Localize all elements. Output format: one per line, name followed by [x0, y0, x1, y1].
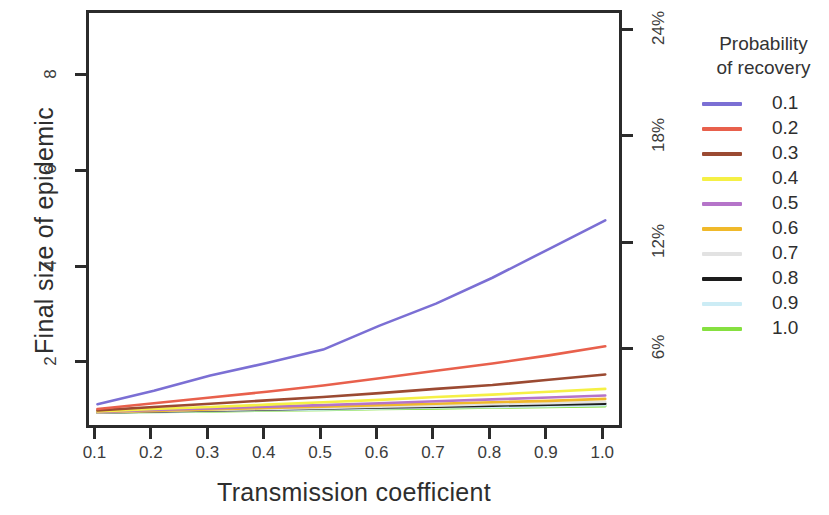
legend-row-0.4[interactable]: 0.4: [690, 167, 829, 192]
y2-axis-tick: [622, 28, 633, 31]
y-axis-tick: [75, 73, 86, 76]
legend-label-0.9: 0.9: [772, 292, 798, 314]
x-axis-tick-label: 0.8: [466, 443, 512, 463]
series-line-0.2: [97, 346, 605, 409]
x-axis-tick-label: 0.5: [297, 443, 343, 463]
legend-swatch-0.6: [702, 227, 742, 231]
legend-row-0.8[interactable]: 0.8: [690, 267, 829, 292]
y2-axis-tick-label: 18%: [649, 112, 669, 158]
legend-label-0.6: 0.6: [772, 217, 798, 239]
x-axis-tick-label: 0.6: [354, 443, 400, 463]
y2-axis-tick-label: 24%: [649, 5, 669, 51]
legend-row-0.1[interactable]: 0.1: [690, 92, 829, 117]
legend-label-0.5: 0.5: [772, 192, 798, 214]
x-axis-tick: [431, 428, 434, 439]
legend: Probability of recovery 0.10.20.30.40.50…: [690, 32, 829, 342]
legend-row-0.3[interactable]: 0.3: [690, 142, 829, 167]
y2-axis-tick-label: 12%: [649, 218, 669, 264]
legend-swatch-0.4: [702, 177, 742, 181]
x-axis-tick: [544, 428, 547, 439]
x-axis-tick: [319, 428, 322, 439]
x-axis-tick: [262, 428, 265, 439]
legend-label-0.1: 0.1: [772, 92, 798, 114]
legend-row-0.2[interactable]: 0.2: [690, 117, 829, 142]
plot-area: [86, 10, 622, 428]
y-axis-tick: [75, 360, 86, 363]
legend-swatch-0.7: [702, 252, 742, 256]
x-axis-tick-label: 0.7: [410, 443, 456, 463]
y-axis-tick-label: 8: [41, 57, 61, 91]
x-axis-tick: [375, 428, 378, 439]
legend-title: Probability of recovery: [698, 32, 829, 80]
x-axis-title: Transmission coefficient: [86, 478, 622, 507]
legend-row-0.6[interactable]: 0.6: [690, 217, 829, 242]
legend-row-1.0[interactable]: 1.0: [690, 317, 829, 342]
x-axis-tick-label: 0.4: [241, 443, 287, 463]
legend-swatch-0.1: [702, 102, 742, 106]
legend-swatch-0.5: [702, 202, 742, 206]
legend-row-0.5[interactable]: 0.5: [690, 192, 829, 217]
series-line-0.1: [97, 220, 605, 404]
y2-axis-tick: [622, 347, 633, 350]
x-axis-tick: [488, 428, 491, 439]
x-axis-tick-label: 0.1: [71, 443, 117, 463]
y2-axis-tick-label: 6%: [649, 324, 669, 370]
plot-curves: [89, 13, 622, 428]
chart-figure: Final size of epidemic 24686%12%18%24%0.…: [0, 0, 829, 515]
y-axis-tick: [75, 265, 86, 268]
legend-row-0.9[interactable]: 0.9: [690, 292, 829, 317]
y2-axis-tick: [622, 134, 633, 137]
legend-label-0.2: 0.2: [772, 117, 798, 139]
y-axis-tick: [75, 169, 86, 172]
x-axis-tick: [149, 428, 152, 439]
x-axis-tick-label: 0.3: [184, 443, 230, 463]
legend-label-0.7: 0.7: [772, 242, 798, 264]
x-axis-tick-label: 0.2: [128, 443, 174, 463]
legend-row-0.7[interactable]: 0.7: [690, 242, 829, 267]
legend-label-0.4: 0.4: [772, 167, 798, 189]
legend-swatch-0.8: [702, 277, 742, 281]
legend-items: 0.10.20.30.40.50.60.70.80.91.0: [690, 92, 829, 342]
x-axis-tick: [206, 428, 209, 439]
legend-swatch-0.2: [702, 127, 742, 131]
legend-label-1.0: 1.0: [772, 317, 798, 339]
legend-swatch-0.9: [702, 302, 742, 306]
y2-axis-tick: [622, 241, 633, 244]
y-axis-tick-label: 4: [41, 248, 61, 282]
legend-title-line1: Probability: [698, 32, 829, 56]
x-axis-tick: [601, 428, 604, 439]
legend-label-0.8: 0.8: [772, 267, 798, 289]
legend-label-0.3: 0.3: [772, 142, 798, 164]
legend-swatch-1.0: [702, 327, 742, 331]
x-axis-tick-label: 0.9: [523, 443, 569, 463]
y-axis-tick-label: 2: [41, 344, 61, 378]
legend-swatch-0.3: [702, 152, 742, 156]
legend-title-line2: of recovery: [698, 56, 829, 80]
x-axis-tick: [93, 428, 96, 439]
x-axis-tick-label: 1.0: [579, 443, 625, 463]
y-axis-tick-label: 6: [41, 152, 61, 186]
